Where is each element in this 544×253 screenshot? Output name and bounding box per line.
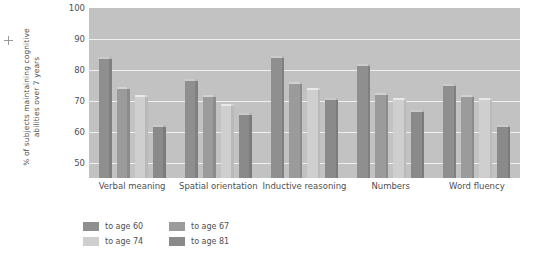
bar xyxy=(375,93,388,178)
bar-slot xyxy=(307,8,320,178)
y-axis-tick-label: 90 xyxy=(59,34,85,44)
bar-group xyxy=(89,8,175,178)
y-axis-tick-label: 100 xyxy=(59,3,85,13)
bar-groups xyxy=(89,8,520,178)
bar-slot xyxy=(461,8,474,178)
bar-group xyxy=(175,8,261,178)
bar-slot xyxy=(203,8,216,178)
legend-item[interactable]: to age 81 xyxy=(169,234,255,249)
bar xyxy=(307,88,320,178)
category-axis-labels: Verbal meaningSpatial orientationInducti… xyxy=(89,181,520,192)
y-axis-tick-labels: 5060708090100 xyxy=(59,8,85,178)
chart-legend: to age 60to age 67to age 74to age 81 xyxy=(83,219,255,249)
bar-slot xyxy=(289,8,302,178)
bar xyxy=(185,79,198,178)
legend-label: to age 67 xyxy=(191,222,229,231)
bar-slot xyxy=(221,8,234,178)
bar-slot xyxy=(135,8,148,178)
bar-slot xyxy=(153,8,166,178)
bar-group xyxy=(261,8,347,178)
grouped-bar-chart: % of subjects maintaining cognitive abil… xyxy=(0,0,544,253)
bar xyxy=(411,110,424,178)
bar xyxy=(479,98,492,178)
bar xyxy=(203,95,216,178)
bar-slot xyxy=(411,8,424,178)
legend-swatch xyxy=(83,237,99,246)
bar xyxy=(271,56,284,178)
legend-label: to age 74 xyxy=(105,237,143,246)
bar xyxy=(99,57,112,178)
bar xyxy=(153,125,166,178)
bar xyxy=(393,98,406,178)
bar xyxy=(117,87,130,178)
bar-slot xyxy=(271,8,284,178)
bar xyxy=(497,125,510,178)
bar xyxy=(239,113,252,178)
bar-slot xyxy=(239,8,252,178)
legend-swatch xyxy=(169,222,185,231)
legend-item[interactable]: to age 60 xyxy=(83,219,169,234)
legend-item[interactable]: to age 74 xyxy=(83,234,169,249)
bar-slot xyxy=(117,8,130,178)
bar-slot xyxy=(443,8,456,178)
legend-item[interactable]: to age 67 xyxy=(169,219,255,234)
bar xyxy=(461,95,474,178)
legend-label: to age 60 xyxy=(105,222,143,231)
y-axis-tick-label: 60 xyxy=(59,127,85,137)
bar xyxy=(357,64,370,178)
bar-slot xyxy=(99,8,112,178)
bar-group xyxy=(348,8,434,178)
legend-swatch xyxy=(83,222,99,231)
y-axis-title: % of subjects maintaining cognitive abil… xyxy=(22,12,42,182)
bar-slot xyxy=(497,8,510,178)
bar-slot xyxy=(185,8,198,178)
bar-slot xyxy=(479,8,492,178)
category-label: Spatial orientation xyxy=(175,181,261,192)
y-axis-tick-label: 80 xyxy=(59,65,85,75)
category-label: Inductive reasoning xyxy=(261,181,347,192)
y-axis-tick-label: 50 xyxy=(59,158,85,168)
legend-swatch xyxy=(169,237,185,246)
category-label: Word fluency xyxy=(434,181,520,192)
bar-slot xyxy=(375,8,388,178)
bar-slot xyxy=(325,8,338,178)
bar-slot xyxy=(357,8,370,178)
category-label: Verbal meaning xyxy=(89,181,175,192)
bar xyxy=(443,84,456,178)
y-axis-tick-label: 70 xyxy=(59,96,85,106)
plot-area xyxy=(89,8,520,178)
crop-mark-icon xyxy=(4,40,13,41)
bar-group xyxy=(434,8,520,178)
category-label: Numbers xyxy=(348,181,434,192)
bar xyxy=(135,95,148,178)
bar-slot xyxy=(393,8,406,178)
bar xyxy=(221,104,234,178)
bar xyxy=(289,82,302,178)
legend-label: to age 81 xyxy=(191,237,229,246)
bar xyxy=(325,98,338,178)
